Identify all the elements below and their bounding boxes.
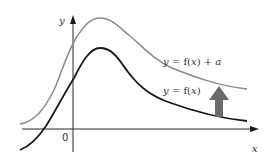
- translation-arrow-icon: [209, 86, 229, 117]
- label-f: y = f(x): [162, 85, 201, 96]
- curve-f-plus-a: [20, 18, 247, 124]
- label-f-plus-a: y = f(x) + a: [162, 56, 221, 67]
- x-axis: [22, 126, 259, 132]
- x-axis-label: x: [252, 143, 258, 154]
- y-axis-arrow-icon: [70, 15, 76, 24]
- graph-canvas: y x 0 y = f(x) + a y = f(x): [0, 0, 276, 160]
- y-axis-label: y: [58, 15, 65, 26]
- origin-label: 0: [62, 132, 68, 143]
- x-axis-arrow-icon: [250, 126, 259, 132]
